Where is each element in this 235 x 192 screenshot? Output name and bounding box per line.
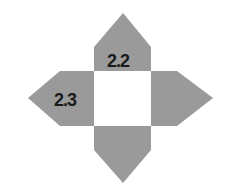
cube-net-diagram: 2.2 2.3: [0, 0, 235, 192]
label-left: 2.3: [54, 90, 77, 110]
label-top: 2.2: [107, 51, 130, 71]
bottom-arm: [94, 126, 151, 183]
right-arm: [151, 71, 213, 126]
center-square: [94, 71, 151, 126]
